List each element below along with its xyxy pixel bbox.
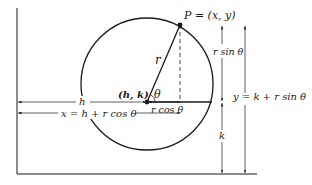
rsin-label: r sin θ xyxy=(213,46,244,57)
point-p-label: P = (x, y) xyxy=(183,9,236,22)
x-equation-label: x = h + r cos θ xyxy=(61,108,136,119)
center-label: (h, k) xyxy=(118,89,149,101)
circle-coordinates-diagram: P = (x, y) (h, k) r θ r sin θ r cos θ h … xyxy=(0,0,312,185)
rcos-label: r cos θ xyxy=(151,104,183,115)
angle-label: θ xyxy=(154,88,161,101)
radius-line xyxy=(147,25,180,102)
h-label: h xyxy=(79,96,85,107)
point-p xyxy=(178,23,183,28)
circle xyxy=(81,18,213,150)
k-label: k xyxy=(219,130,225,141)
y-equation-label: y = k + r sin θ xyxy=(232,91,306,102)
radius-label: r xyxy=(155,53,162,67)
